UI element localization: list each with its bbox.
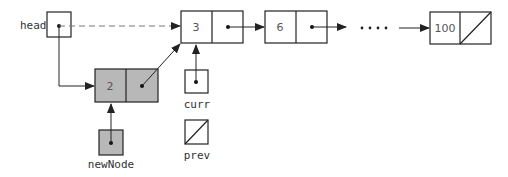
- ellipsis-dot: [377, 27, 380, 30]
- node-100: 100: [430, 12, 491, 44]
- ellipsis-dot: [361, 27, 364, 30]
- ellipsis: [361, 27, 388, 30]
- curr-label: curr: [184, 98, 211, 111]
- linked-list-diagram: head 2 newNode 3 curr prev: [0, 0, 508, 177]
- node-6-value: 6: [277, 21, 284, 34]
- newnode-label: newNode: [88, 158, 134, 171]
- curr-pointer: curr: [184, 70, 211, 111]
- head-pointer: head: [20, 12, 71, 37]
- prev-label: prev: [184, 149, 211, 162]
- ellipsis-dot: [385, 27, 388, 30]
- head-label: head: [20, 19, 47, 32]
- node-2: 2: [95, 69, 158, 102]
- node-3-value: 3: [193, 21, 200, 34]
- node-100-value: 100: [435, 22, 456, 35]
- prev-pointer: prev: [184, 120, 211, 162]
- ellipsis-dot: [369, 27, 372, 30]
- node-2-value: 2: [107, 80, 114, 93]
- node-2-to-node-3-arrow: [142, 44, 180, 86]
